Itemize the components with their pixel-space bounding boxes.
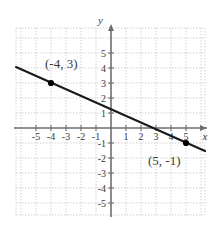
y-tick-label: 3: [101, 78, 106, 89]
y-tick-label: 2: [101, 93, 106, 104]
point-label-second: (5, -1): [148, 153, 181, 168]
y-axis-label: y: [97, 14, 103, 26]
y-tick-label: -3: [98, 168, 106, 179]
y-tick-label: -2: [98, 153, 106, 164]
graph-svg: -5 -4 -3 -2 -1 1 2 3 4 5 5 4 3 2 1 -1 -2…: [0, 0, 223, 235]
x-tick-label: -4: [47, 131, 55, 142]
x-tick-label: 1: [124, 131, 129, 142]
y-tick-label: 4: [101, 63, 106, 74]
data-point-marker: [48, 80, 54, 86]
x-tick-label: -5: [32, 131, 40, 142]
y-tick-label: -4: [98, 183, 106, 194]
y-tick-label: -1: [98, 138, 106, 149]
y-tick-label: 1: [101, 108, 106, 119]
x-tick-label: -2: [77, 131, 85, 142]
coordinate-plane-figure: -5 -4 -3 -2 -1 1 2 3 4 5 5 4 3 2 1 -1 -2…: [0, 0, 223, 235]
point-label-first: (-4, 3): [45, 56, 78, 71]
y-tick-label: 5: [101, 48, 106, 59]
x-axis-label: x: [202, 130, 208, 142]
x-tick-label: -3: [62, 131, 70, 142]
x-tick-label: 2: [139, 131, 144, 142]
x-tick-label: 3: [154, 131, 159, 142]
data-point-marker: [183, 140, 189, 146]
y-tick-label: -5: [98, 198, 106, 209]
